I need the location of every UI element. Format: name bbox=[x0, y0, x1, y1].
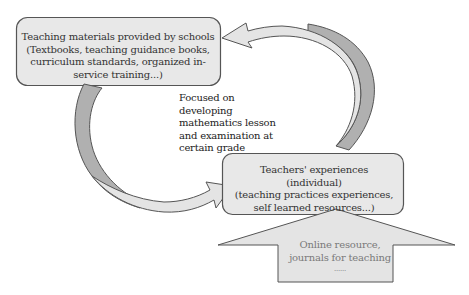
online-resource-line: journals for teaching bbox=[285, 252, 395, 265]
top-box-line: Teaching materials provided by schools bbox=[18, 31, 218, 44]
focus-note-line: developing bbox=[179, 105, 319, 118]
focus-note-line: mathematics lesson bbox=[179, 117, 319, 130]
top-box-line: service training...) bbox=[18, 69, 218, 82]
top-box-line: (Textbooks, teaching guidance books, bbox=[18, 44, 218, 57]
focus-note-line: and examination at bbox=[179, 130, 319, 143]
diagram-canvas: Teaching materials provided by schools (… bbox=[0, 0, 469, 295]
bottom-box-line: (teaching practices experiences, bbox=[224, 189, 404, 202]
top-box-text: Teaching materials provided by schools (… bbox=[18, 31, 218, 81]
top-box-line: curriculum standards, organized in- bbox=[18, 56, 218, 69]
focus-note-line: certain grade bbox=[179, 142, 319, 155]
bottom-box-line: self learned resources...) bbox=[224, 202, 404, 215]
online-resource-ellipsis: ...... bbox=[285, 264, 395, 274]
bottom-box-line: Teachers' experiences bbox=[224, 164, 404, 177]
online-resource-text: Online resource, journals for teaching .… bbox=[285, 239, 395, 274]
bottom-box-line: (individual) bbox=[224, 177, 404, 190]
focus-note: Focused on developing mathematics lesson… bbox=[179, 92, 319, 155]
online-resource-line: Online resource, bbox=[285, 239, 395, 252]
bottom-box-text: Teachers' experiences (individual) (teac… bbox=[224, 164, 404, 214]
focus-note-line: Focused on bbox=[179, 92, 319, 105]
